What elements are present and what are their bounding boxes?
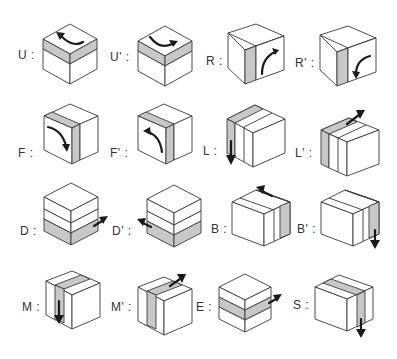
move-label: F' : xyxy=(110,146,128,160)
move-label: E : xyxy=(196,300,212,314)
cube-D-prime-bottom-layer-icon xyxy=(147,185,201,247)
cube-D-bottom-layer-icon xyxy=(44,183,98,245)
cube-M-middle-slice-icon xyxy=(46,271,100,331)
cube-F-prime-front-layer-icon xyxy=(138,104,192,164)
move-label: M : xyxy=(22,300,40,314)
move-label: B' : xyxy=(297,222,316,236)
move-label: U' : xyxy=(110,50,130,64)
move-label: U : xyxy=(18,48,35,62)
move-label: S : xyxy=(293,298,309,312)
cube-R-right-layer-icon xyxy=(228,24,284,84)
move-label: D' : xyxy=(112,224,132,238)
cube-L-prime-left-layer-icon xyxy=(321,118,379,180)
move-label: R : xyxy=(206,54,223,68)
cube-B-back-layer-icon xyxy=(232,190,290,246)
cube-S-standing-slice-icon xyxy=(315,275,373,331)
cube-F-front-layer-icon xyxy=(44,104,98,164)
cube-L-left-layer-icon xyxy=(227,105,285,167)
cube-B-prime-back-layer-icon xyxy=(321,190,379,246)
move-label: F : xyxy=(18,146,34,160)
move-label: D : xyxy=(20,224,37,238)
cube-R-prime-right-layer-icon xyxy=(320,26,376,86)
cube-U-top-layer-icon xyxy=(43,24,97,84)
move-label: L : xyxy=(203,144,217,158)
cube-E-equator-slice-icon xyxy=(219,274,271,332)
cube-U-prime-top-layer-icon xyxy=(138,26,192,86)
cube-M-prime-middle-slice-icon xyxy=(138,277,192,337)
move-label: B : xyxy=(211,222,227,236)
move-label: R' : xyxy=(295,56,315,70)
move-label: L' : xyxy=(295,146,313,160)
move-label: M' : xyxy=(111,300,132,314)
